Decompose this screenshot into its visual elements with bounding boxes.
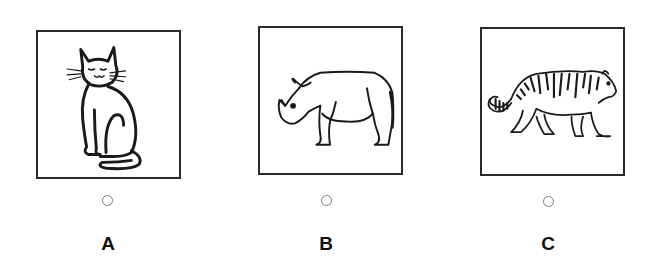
option-c-label: C [528,233,568,255]
rhinoceros-image-card[interactable] [258,26,403,175]
option-b-radio[interactable] [321,195,332,206]
option-b-label: B [306,233,346,255]
tiger-icon [482,29,623,174]
option-c: C [0,0,150,277]
tiger-image-card[interactable] [480,27,625,176]
option-c-radio[interactable] [543,196,554,207]
rhinoceros-icon [260,28,401,173]
